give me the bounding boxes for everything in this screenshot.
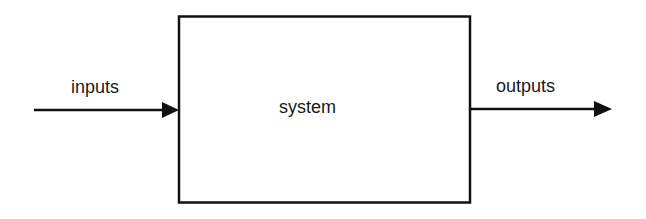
output-arrowhead-icon [594,101,612,117]
system-label: system [279,98,336,116]
system-block-diagram: inputs system outputs [0,0,646,219]
output-arrow [470,101,612,117]
outputs-label: outputs [496,77,555,95]
input-arrow [34,102,179,118]
input-arrowhead-icon [162,102,179,118]
inputs-label: inputs [71,78,119,96]
